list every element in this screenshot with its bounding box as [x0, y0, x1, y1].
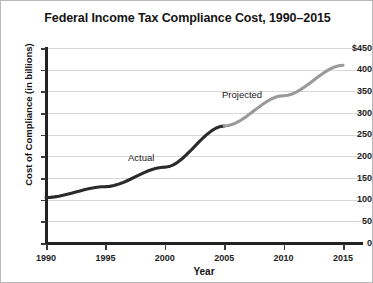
y-tick-label: 150	[334, 173, 372, 183]
y-tick-mark	[41, 48, 46, 50]
x-tick-label: 2010	[261, 253, 307, 263]
x-tick-mark	[165, 244, 167, 250]
x-tick-label: 1995	[82, 253, 128, 263]
x-tick-mark	[284, 244, 286, 250]
x-tick-label: 2015	[320, 253, 366, 263]
gridline	[46, 135, 363, 136]
y-tick-label: $450	[334, 43, 372, 53]
y-tick-mark	[41, 221, 46, 223]
chart-title: Federal Income Tax Compliance Cost, 1990…	[1, 11, 373, 25]
gridline	[46, 91, 363, 92]
gridline	[46, 70, 363, 71]
x-axis-line	[45, 242, 363, 245]
y-tick-label: 400	[334, 64, 372, 74]
gridline	[46, 48, 363, 49]
y-tick-label: 300	[334, 108, 372, 118]
gridline	[46, 113, 363, 114]
y-tick-mark	[41, 178, 46, 180]
gridline	[46, 156, 363, 157]
y-tick-label: 50	[334, 216, 372, 226]
gridline	[46, 178, 363, 179]
y-tick-label: 100	[334, 194, 372, 204]
plot-area	[46, 48, 363, 243]
x-tick-label: 1990	[23, 253, 69, 263]
x-tick-mark	[46, 244, 48, 250]
y-tick-mark	[41, 70, 46, 72]
y-tick-mark	[41, 113, 46, 115]
y-tick-mark	[41, 156, 46, 158]
x-tick-label: 2000	[142, 253, 188, 263]
y-tick-label: 350	[334, 86, 372, 96]
x-tick-mark	[105, 244, 107, 250]
y-axis-line	[45, 47, 48, 244]
x-tick-label: 2005	[201, 253, 247, 263]
y-tick-mark	[41, 200, 46, 202]
y-tick-mark	[41, 135, 46, 137]
y-tick-label: 200	[334, 151, 372, 161]
series-label-projected: Projected	[222, 89, 262, 100]
series-label-actual: Actual	[128, 152, 154, 163]
gridline	[46, 221, 363, 222]
y-tick-label: 0	[334, 238, 372, 248]
y-tick-label: 250	[334, 129, 372, 139]
y-tick-mark	[41, 91, 46, 93]
gridline	[46, 200, 363, 201]
chart-figure: Federal Income Tax Compliance Cost, 1990…	[0, 0, 373, 283]
x-axis-title: Year	[45, 266, 363, 277]
x-tick-mark	[224, 244, 226, 250]
y-axis-title: Cost of Compliance (in billions)	[23, 35, 34, 195]
x-tick-mark	[343, 244, 345, 250]
